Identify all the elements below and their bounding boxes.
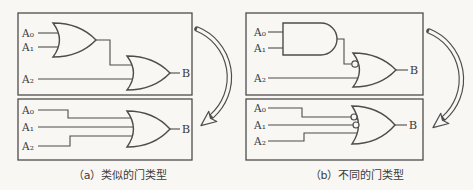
input-label-a1: A₁: [253, 119, 266, 131]
output-label-b: B: [409, 118, 417, 132]
input-label-a0: A₀: [253, 102, 266, 114]
inversion-bubble-icon: [352, 61, 358, 67]
output-label-b: B: [182, 122, 190, 136]
input-label-a2: A₂: [253, 135, 266, 147]
input-label-a2: A₂: [21, 140, 34, 152]
wire-a0: [268, 108, 351, 117]
or-gate: [353, 53, 396, 87]
output-label-b: B: [410, 63, 418, 77]
input-label-a1: A₁: [21, 41, 34, 53]
wire-a2: [38, 136, 138, 146]
panel-b-transform-arrow: [429, 31, 461, 133]
panel-a-caption: （a）类似的门类型: [73, 168, 168, 182]
output-label-b: B: [182, 66, 190, 80]
input-label-a0: A₀: [253, 26, 266, 38]
wire-and-to-or: [337, 39, 352, 64]
wire-a0: [38, 110, 138, 118]
input-label-a2: A₂: [253, 72, 266, 84]
panel-b: [246, 13, 423, 160]
arrow-shaft-outer: [429, 31, 461, 118]
or-gate: [127, 111, 170, 147]
panel-a-top-box: [18, 13, 192, 95]
input-label-a0: A₀: [21, 27, 34, 39]
panel-b-top-box: [246, 13, 423, 95]
inversion-bubble-icon: [351, 114, 357, 120]
and-gate: [283, 23, 337, 55]
input-label-a2: A₂: [21, 73, 34, 85]
input-label-a1: A₁: [253, 42, 266, 54]
arrow-shaft-outer: [197, 29, 229, 116]
inversion-bubble-icon: [353, 122, 359, 128]
or-gate: [127, 56, 170, 90]
logic-gate-equivalence-figure: A₀ A₁ A₂ B A₀ A₁ A₂ B （a）类似的门类型: [0, 0, 473, 190]
input-label-a0: A₀: [21, 104, 34, 116]
panel-a: [18, 13, 192, 160]
panel-b-caption: （b）不同的门类型: [310, 168, 405, 182]
figure-canvas: A₀ A₁ A₂ B A₀ A₁ A₂ B （a）类似的门类型: [0, 0, 473, 190]
wire-a2: [268, 133, 360, 141]
input-label-a1: A₁: [21, 121, 34, 133]
panel-a-transform-arrow: [197, 29, 229, 131]
or-gate: [53, 23, 96, 57]
